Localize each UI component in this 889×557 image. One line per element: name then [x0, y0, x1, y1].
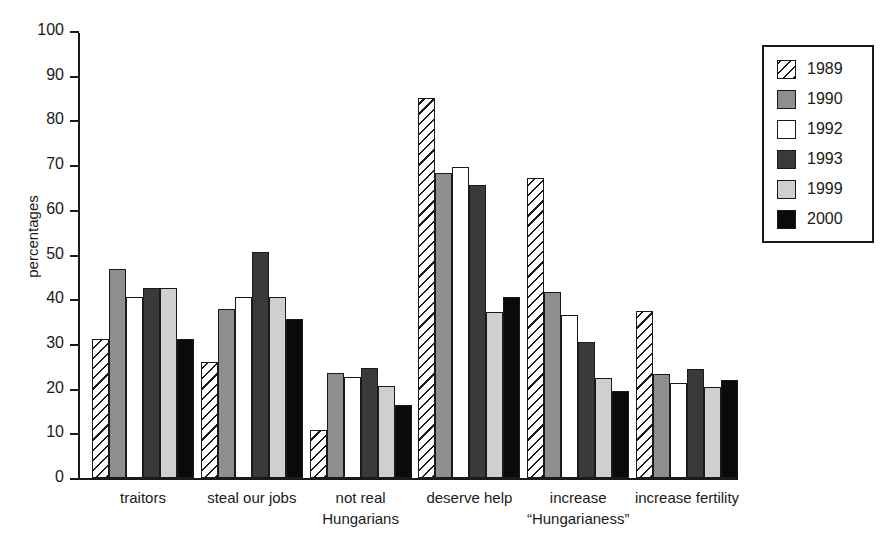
y-tick-label: 20 [46, 379, 64, 397]
y-tick-label: 70 [46, 155, 64, 173]
y-tick: 90 [70, 76, 79, 78]
bar [344, 377, 361, 478]
bar [687, 369, 704, 478]
bar-group-bars [418, 33, 520, 478]
bar [469, 185, 486, 478]
x-axis-label: increase fertility [607, 487, 767, 508]
legend-label: 1992 [807, 120, 843, 138]
bar-group-bars [527, 33, 629, 478]
legend-swatch [777, 90, 796, 109]
x-axis-line [78, 478, 738, 480]
legend-label: 1993 [807, 150, 843, 168]
y-tick: 60 [70, 210, 79, 212]
bar [269, 297, 286, 478]
bar-group [92, 33, 194, 478]
y-tick: 30 [70, 344, 79, 346]
y-tick: 100 [70, 31, 79, 33]
y-tick-label: 40 [46, 289, 64, 307]
bar-group [636, 33, 738, 478]
y-tick: 10 [70, 433, 79, 435]
bar [177, 339, 194, 478]
bar [418, 98, 435, 478]
legend-item: 2000 [777, 208, 872, 230]
bar [310, 430, 327, 478]
legend-swatch [777, 60, 796, 79]
legend-item: 1999 [777, 178, 872, 200]
x-axis-label-line2: Hungarians [281, 508, 441, 529]
legend-item: 1992 [777, 118, 872, 140]
bar-group [418, 33, 520, 478]
bar [561, 315, 578, 478]
y-tick: 20 [70, 389, 79, 391]
legend-swatch [777, 180, 796, 199]
legend-swatch [777, 210, 796, 229]
y-tick-label: 50 [46, 245, 64, 263]
y-axis-title: percentages [24, 167, 41, 307]
y-tick-label: 80 [46, 110, 64, 128]
bar [653, 374, 670, 478]
legend-swatch [777, 120, 796, 139]
plot-area: 0102030405060708090100 [78, 33, 738, 480]
bar [544, 292, 561, 478]
y-tick-label: 90 [46, 66, 64, 84]
legend-label: 2000 [807, 210, 843, 228]
x-axis-label-line2: “Hungarianess” [498, 508, 658, 529]
bar [252, 252, 269, 478]
bar [595, 378, 612, 478]
legend: 198919901992199319992000 [762, 45, 874, 243]
y-tick: 0 [70, 478, 79, 480]
bar-group [527, 33, 629, 478]
bar [395, 405, 412, 478]
y-tick-label: 100 [37, 21, 64, 39]
bar [704, 387, 721, 478]
bar-group [310, 33, 412, 478]
bar [527, 178, 544, 478]
bar-group-bars [636, 33, 738, 478]
bar [143, 288, 160, 478]
legend-label: 1990 [807, 90, 843, 108]
y-tick-label: 60 [46, 200, 64, 218]
y-axis-line [78, 33, 80, 480]
bar-chart: percentages 0102030405060708090100 trait… [0, 0, 889, 557]
bar-group-bars [92, 33, 194, 478]
legend-item: 1993 [777, 148, 872, 170]
bar [92, 339, 109, 478]
bar [160, 288, 177, 478]
y-tick: 50 [70, 255, 79, 257]
bar [126, 297, 143, 478]
y-tick: 40 [70, 299, 79, 301]
bar [201, 362, 218, 478]
legend-label: 1999 [807, 180, 843, 198]
bar [503, 297, 520, 478]
y-tick-label: 30 [46, 334, 64, 352]
legend-label: 1989 [807, 60, 843, 78]
bar [636, 311, 653, 478]
x-axis-label-line1: increase fertility [607, 487, 767, 508]
bar [486, 312, 503, 478]
legend-swatch [777, 150, 796, 169]
bar [612, 391, 629, 478]
bar [109, 269, 126, 478]
y-tick: 80 [70, 120, 79, 122]
y-tick-label: 0 [55, 468, 64, 486]
bar [235, 297, 252, 478]
bar [361, 368, 378, 478]
bar [435, 173, 452, 478]
y-tick-label: 10 [46, 423, 64, 441]
bar [286, 319, 303, 478]
legend-item: 1990 [777, 88, 872, 110]
bar [578, 342, 595, 478]
bar [670, 383, 687, 478]
bar [378, 386, 395, 478]
y-tick: 70 [70, 165, 79, 167]
bar [452, 167, 469, 478]
legend-item: 1989 [777, 58, 872, 80]
bar-group-bars [201, 33, 303, 478]
bar [721, 380, 738, 478]
bar-group [201, 33, 303, 478]
bar [218, 309, 235, 478]
bar [327, 373, 344, 478]
bar-group-bars [310, 33, 412, 478]
